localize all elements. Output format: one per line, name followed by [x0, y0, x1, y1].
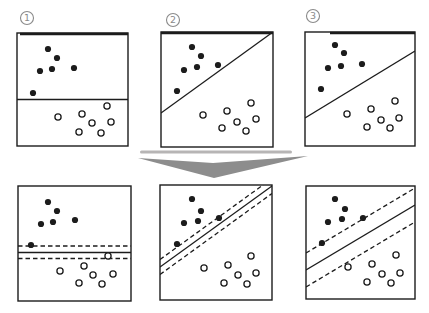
- filled-class-dot: [198, 53, 204, 59]
- open-class-dot: [344, 111, 350, 117]
- open-class-dot: [378, 117, 384, 123]
- open-class-dot: [105, 253, 111, 259]
- open-class-dot: [201, 265, 207, 271]
- open-class-dot: [224, 108, 230, 114]
- open-class-dot: [55, 114, 61, 120]
- filled-class-dot: [181, 220, 187, 226]
- filled-class-dot: [54, 55, 60, 61]
- open-class-dot: [388, 280, 394, 286]
- open-class-dot: [397, 270, 403, 276]
- open-class-dot: [393, 252, 399, 258]
- filled-class-dot: [216, 215, 222, 221]
- panel-frame: [17, 33, 128, 146]
- filled-class-dot: [174, 241, 180, 247]
- open-class-dot: [379, 271, 385, 277]
- panel-frame: [18, 186, 131, 301]
- filled-class-dot: [30, 90, 36, 96]
- panel-5-bottom-middle: [160, 179, 272, 301]
- filled-class-dot: [189, 196, 195, 202]
- filled-class-dot: [325, 219, 331, 225]
- open-class-dot: [345, 264, 351, 270]
- filled-class-dot: [38, 221, 44, 227]
- open-class-dot: [57, 268, 63, 274]
- filled-class-dot: [339, 216, 345, 222]
- open-class-dot: [396, 115, 402, 121]
- open-class-dot: [89, 120, 95, 126]
- panel-number-label-1: 1: [21, 12, 34, 25]
- open-class-dot: [98, 130, 104, 136]
- down-arrow-icon: [138, 156, 308, 178]
- open-class-dot: [200, 112, 206, 118]
- filled-class-dot: [28, 242, 34, 248]
- filled-class-dot: [341, 50, 347, 56]
- filled-class-dot: [360, 215, 366, 221]
- open-class-dot: [108, 119, 114, 125]
- panel-number-label-2: 2: [167, 14, 180, 27]
- open-class-dot: [243, 128, 249, 134]
- open-class-dot: [244, 281, 250, 287]
- filled-class-dot: [215, 62, 221, 68]
- open-class-dot: [99, 281, 105, 287]
- panel-4-bottom-left: [18, 186, 131, 301]
- open-class-dot: [369, 261, 375, 267]
- panel-3-top-right: [305, 32, 415, 146]
- filled-class-dot: [359, 61, 365, 67]
- open-class-dot: [76, 129, 82, 135]
- filled-class-dot: [37, 68, 43, 74]
- open-class-dot: [235, 272, 241, 278]
- filled-class-dot: [189, 44, 195, 50]
- filled-class-dot: [50, 219, 56, 225]
- scan-smudge: [140, 151, 292, 154]
- open-class-dot: [234, 119, 240, 125]
- open-class-dot: [368, 106, 374, 112]
- filled-class-dot: [332, 196, 338, 202]
- label-number-text: 3: [310, 10, 316, 21]
- filled-class-dot: [45, 46, 51, 52]
- filled-class-dot: [71, 65, 77, 71]
- open-class-dot: [104, 103, 110, 109]
- open-class-dot: [364, 124, 370, 130]
- open-class-dot: [81, 263, 87, 269]
- label-number-text: 2: [170, 14, 176, 25]
- filled-class-dot: [198, 208, 204, 214]
- open-class-dot: [253, 116, 259, 122]
- open-class-dot: [79, 111, 85, 117]
- filled-class-dot: [319, 240, 325, 246]
- open-class-dot: [90, 272, 96, 278]
- filled-class-dot: [174, 88, 180, 94]
- open-class-dot: [392, 98, 398, 104]
- open-class-dot: [248, 100, 254, 106]
- open-class-dot: [225, 262, 231, 268]
- panel-1-top-left: [17, 33, 128, 146]
- filled-class-dot: [54, 208, 60, 214]
- filled-class-dot: [195, 218, 201, 224]
- open-class-dot: [110, 271, 116, 277]
- figure-svg: 123: [0, 0, 429, 313]
- filled-class-dot: [338, 63, 344, 69]
- open-class-dot: [364, 279, 370, 285]
- filled-class-dot: [332, 42, 338, 48]
- open-class-dot: [219, 125, 225, 131]
- panel-number-label-3: 3: [307, 10, 320, 23]
- filled-class-dot: [342, 206, 348, 212]
- open-class-dot: [253, 270, 259, 276]
- filled-class-dot: [181, 67, 187, 73]
- filled-class-dot: [194, 64, 200, 70]
- open-class-dot: [76, 280, 82, 286]
- filled-class-dot: [318, 86, 324, 92]
- filled-class-dot: [49, 66, 55, 72]
- open-class-dot: [221, 280, 227, 286]
- panel-6-bottom-right: [306, 186, 415, 299]
- label-number-text: 1: [24, 12, 30, 23]
- filled-class-dot: [45, 199, 51, 205]
- filled-class-dot: [72, 217, 78, 223]
- filled-class-dot: [325, 65, 331, 71]
- open-class-dot: [248, 253, 254, 259]
- svm-margin-figure: 123: [0, 0, 429, 313]
- panel-2-top-middle: [161, 32, 273, 147]
- open-class-dot: [387, 125, 393, 131]
